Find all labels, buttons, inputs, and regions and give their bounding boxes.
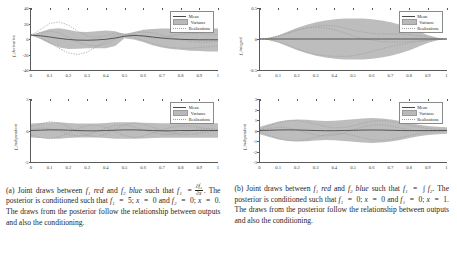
- legend-dotted-icon: [173, 26, 186, 30]
- plot-a-top-xtick-mark: [87, 8, 88, 10]
- plot-a-bottom-xtick-mark: [218, 99, 219, 101]
- plot-b-top-xtick-mark: [372, 8, 373, 10]
- caption-b-integral: ∫ f₂: [423, 184, 433, 193]
- plot-a-top-xtick-mark: [143, 8, 144, 10]
- plot-b-bottom-xtick-mark: [316, 99, 317, 101]
- plot-b-bottom-xtick-label: 0.5: [350, 165, 356, 170]
- plot-a-bottom-xtick-mark: [181, 99, 182, 101]
- plot-a-top-xtick-mark: [31, 8, 32, 10]
- plot-b-top-xtick-mark: [260, 8, 261, 10]
- plot-b-bottom-ytick-mark: [257, 110, 259, 111]
- plot-a-bottom-xtick-mark: [125, 99, 126, 101]
- plot-b-bottom-ytick-mark: [257, 152, 259, 153]
- plot-a-top-xtick-mark: [218, 8, 219, 10]
- panel-a-plots: f_derivative Mean Variance: [0, 0, 229, 183]
- legend-label-variance: Variance: [191, 20, 206, 25]
- caption-a-color2: blue: [129, 186, 142, 195]
- caption-b: (b) Joint draws between f₁ red and f₂ bl…: [229, 183, 457, 226]
- plot-a-bottom-xtick-mark: [50, 99, 51, 101]
- caption-a: (a) Joint draws between f₁ red and f₂ bl…: [0, 183, 229, 228]
- caption-b-suchthat: such that: [372, 184, 400, 193]
- plot-a-top-xtick-mark: [50, 8, 51, 10]
- plot-a-bottom-xtick-mark: [87, 99, 88, 101]
- plot-b-top-legend: Mean Variance Realizations: [399, 11, 443, 33]
- legend-label-variance: Variance: [191, 111, 206, 116]
- plot-a-bottom-xtick-mark: [68, 99, 69, 101]
- caption-b-cond1-xeq: =: [372, 195, 376, 204]
- plot-b-top-xtick-label: 0.9: [425, 73, 431, 78]
- legend-swatch-icon: [173, 19, 188, 25]
- figure-panel-b: f_integral Mean Variance: [229, 0, 457, 276]
- plot-a-top-xtick-mark: [125, 8, 126, 10]
- plot-b-bottom-xtick-mark: [260, 99, 261, 101]
- caption-b-f2: f₂: [348, 184, 353, 193]
- plot-b-top-ytick-mark: [257, 70, 259, 71]
- plot-a-bottom-xtick-label: 1: [217, 165, 219, 170]
- plot-a-bottom-legend: Mean Variance Realizations: [170, 102, 214, 124]
- caption-b-rel-eq: =: [413, 184, 417, 193]
- plot-b-bottom-xtick-mark: [447, 99, 448, 101]
- plot-a-top-xtick-label: 0.2: [66, 73, 72, 78]
- caption-b-cond2-eqsign: =: [410, 195, 414, 204]
- plot-a-bottom-xtick-mark: [199, 99, 200, 101]
- plot-b-top-xtick-label: 0.5: [350, 73, 356, 78]
- legend-label-mean: Mean: [417, 105, 427, 110]
- plot-a-top-xtick-mark: [181, 8, 182, 10]
- legend-label-variance: Variance: [419, 111, 434, 116]
- plot-a-top-ytick-label: 20: [24, 21, 29, 26]
- plot-a-top-xtick-label: 0: [30, 73, 32, 78]
- plot-b-bottom-ylabel: f_independent: [241, 124, 246, 150]
- plot-b-bottom-axes: Mean Variance Realizations 3210-1-2-300.…: [259, 99, 447, 163]
- plot-b-bottom-xtick-mark: [372, 99, 373, 101]
- plot-a-bottom-axes: Mean Variance Realizations 50-500.10.20.…: [30, 99, 218, 163]
- plot-a-top-ytick-mark: [29, 55, 31, 56]
- plot-a-bottom-ylabel: f_independent: [13, 124, 18, 150]
- plot-a-top-ytick-mark: [29, 24, 31, 25]
- plot-a-top-legend: Mean Variance Realizations: [170, 11, 214, 33]
- plot-b-bottom-ytick-mark: [257, 141, 259, 142]
- plot-b-top-xtick-label: 0.8: [406, 73, 412, 78]
- caption-b-color1: red: [321, 184, 331, 193]
- plot-a-bottom-xtick-label: 0.4: [103, 165, 109, 170]
- plot-b-bottom: f_independent Mean Variance: [229, 91, 457, 183]
- plot-a-top-xtick-label: 0.6: [140, 73, 146, 78]
- legend-line-icon: [402, 105, 415, 109]
- plot-b-bottom-xtick-mark: [334, 99, 335, 101]
- plot-b-bottom-xtick-label: 0.8: [406, 165, 412, 170]
- plot-b-top-xtick-label: 0.7: [388, 73, 394, 78]
- plot-b-top-xtick-label: 0.4: [331, 73, 337, 78]
- legend-row-mean: Mean: [402, 14, 439, 19]
- plot-b-top-xtick-mark: [278, 8, 279, 10]
- plot-b-bottom-xtick-mark: [428, 99, 429, 101]
- plot-b-top-xtick-label: 1: [445, 73, 447, 78]
- plot-a-top-xtick-label: 0.5: [122, 73, 128, 78]
- plot-a-bottom-xtick-label: 0.9: [196, 165, 202, 170]
- plot-a-top-ytick-label: -20: [22, 52, 28, 57]
- caption-a-color1: red: [94, 186, 104, 195]
- plot-a-top-xtick-label: 1: [217, 73, 219, 78]
- plot-b-bottom-xtick-label: 0.9: [425, 165, 431, 170]
- plot-b-top-xtick-label: 0.2: [294, 73, 300, 78]
- legend-label-realizations: Realizations: [417, 117, 438, 122]
- caption-a-cond2: f₂: [172, 196, 177, 205]
- plot-b-top-ytick-label: -0.5: [250, 68, 257, 73]
- plot-a-top-ytick-label: -40: [22, 68, 28, 73]
- legend-swatch-icon: [173, 110, 188, 116]
- plot-b-bottom-xtick-mark: [278, 99, 279, 101]
- plot-a-bottom-xtick-mark: [106, 99, 107, 101]
- legend-row-realizations: Realizations: [173, 26, 210, 31]
- caption-a-derivative-fraction: ∂f₂∂x: [195, 184, 203, 196]
- caption-b-color2: blue: [356, 184, 369, 193]
- caption-a-and2: and: [159, 196, 170, 205]
- plot-a-top-ytick-mark: [29, 70, 31, 71]
- caption-a-cond2-xeq: =: [206, 196, 210, 205]
- caption-a-cond1-xeq: =: [144, 196, 148, 205]
- plot-a-bottom-xtick-label: 0: [30, 165, 32, 170]
- figure-panel-a: f_derivative Mean Variance: [0, 0, 229, 276]
- plot-a-top-xtick-mark: [106, 8, 107, 10]
- caption-a-cond2-eqsign: =: [181, 196, 185, 205]
- caption-b-and: and: [334, 184, 345, 193]
- plot-b-top-xtick-mark: [447, 8, 448, 10]
- caption-a-lead: (a) Joint draws between: [6, 186, 82, 195]
- plot-b-bottom-xtick-label: 1: [445, 165, 447, 170]
